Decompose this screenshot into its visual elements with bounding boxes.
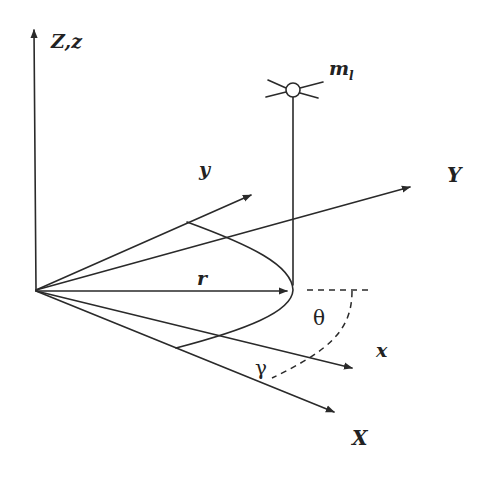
z-axis-label: Z,z — [50, 30, 83, 52]
mass-label-main: m — [329, 57, 349, 79]
big-y-axis-line — [36, 187, 410, 290]
gamma-label: γ — [255, 356, 267, 380]
small-x-axis-line — [36, 291, 352, 368]
mass-label-subscript: l — [349, 69, 354, 83]
small-y-axis-line — [36, 195, 251, 290]
mass-icon — [266, 80, 323, 98]
z-axis-line — [34, 30, 36, 290]
big-x-axis-line — [36, 291, 334, 412]
mass-label: ml — [329, 57, 354, 83]
big-y-axis-label: Y — [447, 163, 463, 187]
small-x-axis-label: x — [375, 339, 388, 361]
radius-label: r — [197, 267, 209, 289]
small-y-axis-label: y — [198, 158, 212, 180]
coordinate-diagram: Z,z Y y r x X ml θ γ — [0, 0, 480, 477]
big-x-axis-label: X — [350, 426, 369, 450]
theta-label: θ — [313, 306, 325, 330]
